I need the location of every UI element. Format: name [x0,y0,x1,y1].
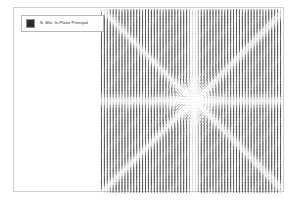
legend[interactable]: S, Min. In-Plane Principal [21,15,104,32]
plot-frame: S, Min. In-Plane Principal [13,7,284,192]
symbol-marks [100,9,282,193]
legend-label: S, Min. In-Plane Principal [40,21,88,25]
plot-viewport: S, Min. In-Plane Principal [0,0,299,205]
symbol-plot-canvas [100,9,282,193]
principal-stress-symbol-plot [100,9,282,193]
legend-color-swatch-icon [26,19,35,28]
